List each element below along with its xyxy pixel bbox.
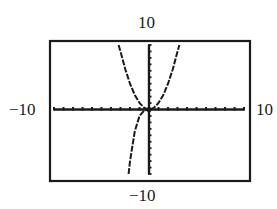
graph-window <box>0 0 277 209</box>
function-curve <box>129 110 149 175</box>
origin-point <box>146 107 151 112</box>
